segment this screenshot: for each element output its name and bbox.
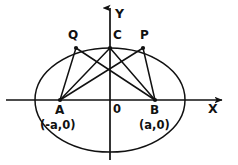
- point-coord-a: (-a,0): [40, 120, 75, 132]
- point-marker-b: [153, 98, 157, 102]
- figure-canvas: [0, 0, 238, 165]
- point-marker-q: [74, 46, 78, 50]
- point-label-c: C: [113, 29, 122, 41]
- y-axis-label: Y: [115, 8, 124, 21]
- point-marker-a: [58, 98, 62, 102]
- point-label-b: B: [150, 104, 159, 116]
- origin-label: 0: [113, 104, 121, 116]
- point-marker-p: [141, 46, 145, 50]
- point-marker-c: [108, 46, 112, 50]
- x-axis-label: X: [208, 103, 218, 116]
- chord-group: [60, 48, 155, 100]
- point-label-a: A: [55, 104, 64, 116]
- chord-b-q: [76, 48, 155, 100]
- point-label-p: P: [140, 29, 149, 41]
- point-coord-b: (a,0): [139, 120, 170, 132]
- point-label-q: Q: [68, 29, 78, 41]
- geometry-figure: Q C P A B (-a,0) (a,0) 0 X Y: [0, 0, 238, 165]
